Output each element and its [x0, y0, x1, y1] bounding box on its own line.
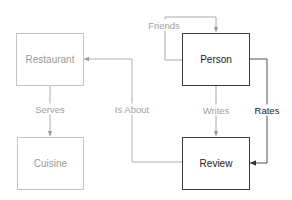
- edge-label-rates: Rates: [254, 105, 281, 116]
- node-cuisine[interactable]: Cuisine: [17, 137, 84, 190]
- node-person[interactable]: Person: [182, 33, 250, 86]
- edge-label-friends: Friends: [147, 20, 181, 31]
- node-person-label: Person: [200, 54, 232, 65]
- node-review-label: Review: [200, 158, 233, 169]
- node-cuisine-label: Cuisine: [34, 158, 67, 169]
- node-review[interactable]: Review: [182, 137, 250, 190]
- node-restaurant-label: Restaurant: [26, 54, 75, 65]
- edge-label-serves: Serves: [34, 104, 66, 115]
- node-restaurant[interactable]: Restaurant: [16, 33, 84, 86]
- edge-label-is-about: Is About: [114, 104, 150, 115]
- edge-label-writes: Writes: [202, 105, 231, 116]
